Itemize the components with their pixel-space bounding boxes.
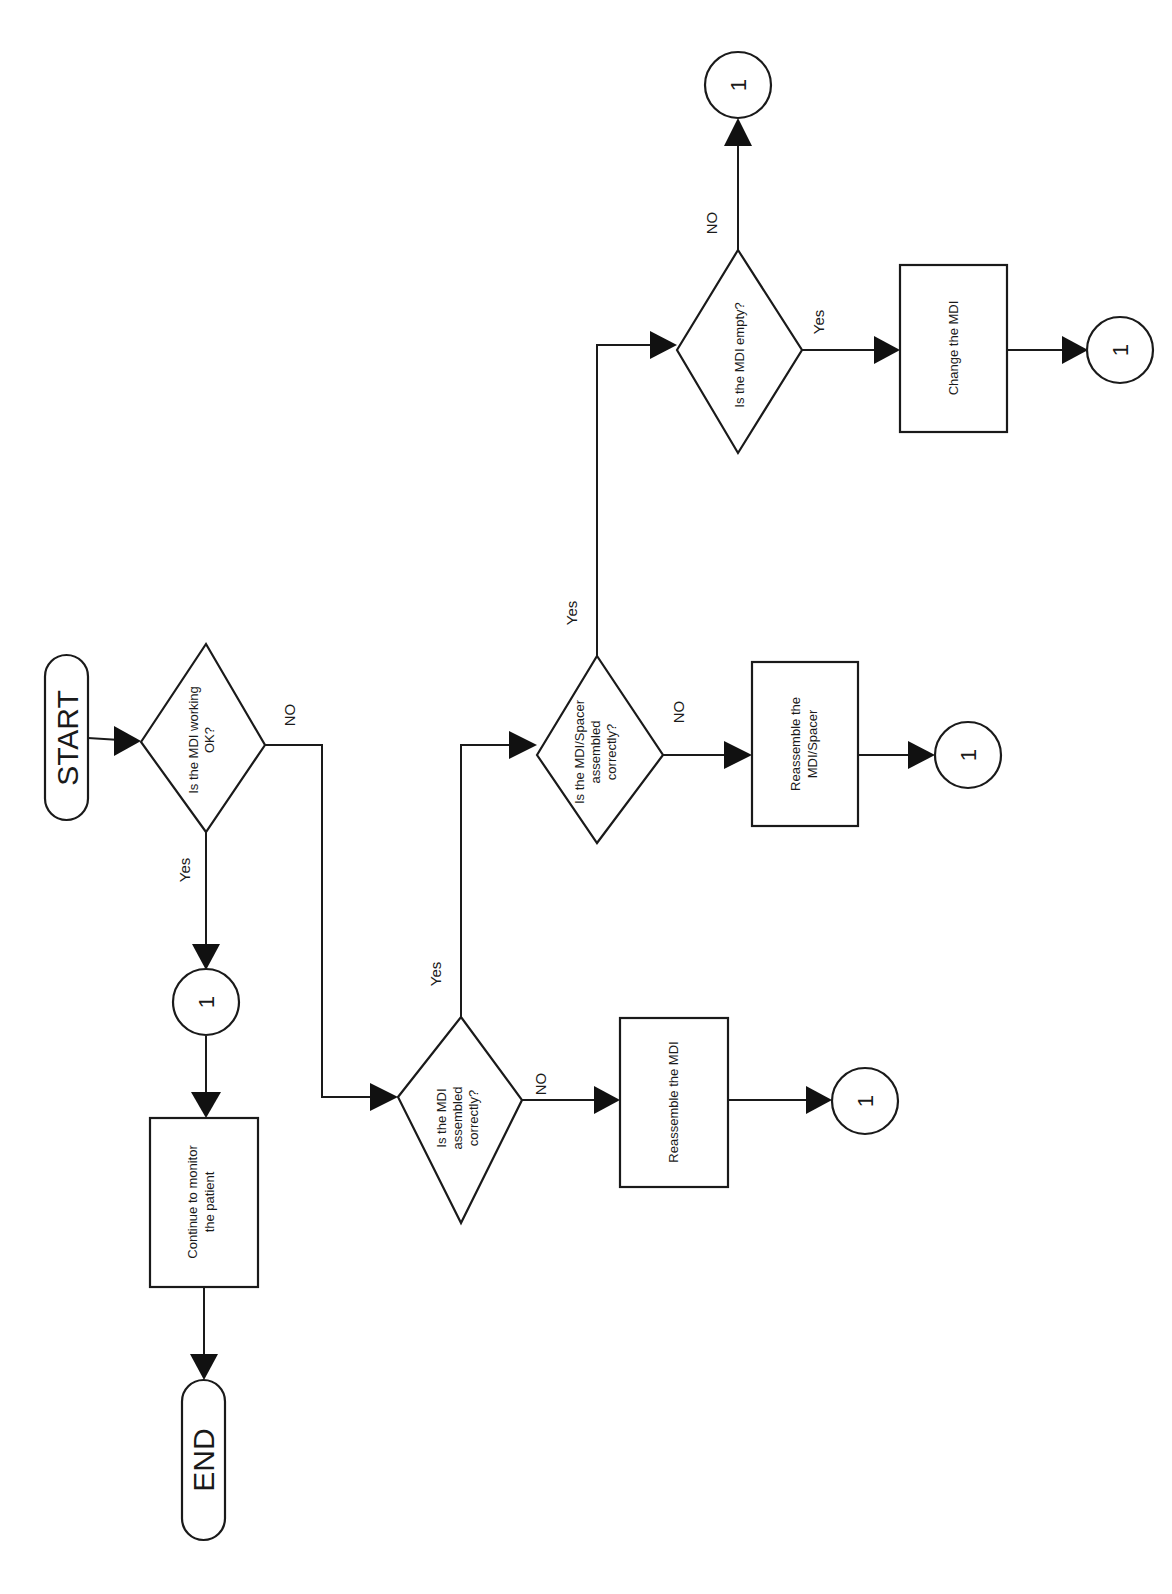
connector-label: 1 <box>194 996 219 1008</box>
decision-text-line: Is the MDI working <box>186 686 201 794</box>
decision-text-line: assembled <box>588 721 603 784</box>
decision-text-line: Is the MDI/Spacer <box>572 699 587 804</box>
arrow-right-icon <box>874 336 900 364</box>
process-text-line: Reassemble the <box>788 697 803 791</box>
process-text-line: Continue to monitor <box>185 1145 200 1259</box>
arrow-right-icon <box>1062 336 1088 364</box>
start-label: START <box>51 690 84 786</box>
connector-label: 1 <box>956 749 981 761</box>
flowchart-canvas: START END Is the MDI working OK? Is the … <box>0 0 1172 1594</box>
connector-after-empty-no: 1 <box>705 52 771 118</box>
label-assembled-no: NO <box>532 1073 549 1096</box>
decision-mdi-working: Is the MDI working OK? <box>141 644 265 832</box>
process-change-mdi: Change the MDI <box>900 265 1007 432</box>
decision-mdi-assembled: Is the MDI assembled correctly? <box>398 1017 522 1223</box>
label-empty-yes: Yes <box>810 310 827 334</box>
arrow-down-icon <box>191 1092 221 1118</box>
arrow-up-icon <box>724 118 752 146</box>
label-empty-no: NO <box>703 212 720 235</box>
edge-working-no <box>265 745 378 1097</box>
connector-label: 1 <box>1108 344 1133 356</box>
decision-text-line: Is the MDI empty? <box>732 302 747 407</box>
process-continue-monitor: Continue to monitor the patient <box>150 1118 258 1287</box>
decision-text-line: assembled <box>450 1087 465 1150</box>
process-reassemble-mdi: Reassemble the MDI <box>620 1018 728 1187</box>
decision-text-line: correctly? <box>466 1090 481 1146</box>
arrow-down-icon <box>190 1354 218 1380</box>
process-text-line: Change the MDI <box>946 301 961 396</box>
connector-after-reassemble-mdi: 1 <box>832 1068 898 1134</box>
end-label: END <box>187 1428 220 1491</box>
process-text-line: MDI/Spacer <box>805 709 820 778</box>
arrow-right-icon <box>724 741 752 769</box>
connector-after-working-yes: 1 <box>173 969 239 1035</box>
process-text-line: Reassemble the MDI <box>666 1041 681 1162</box>
connector-label: 1 <box>726 79 751 91</box>
decision-text-line: OK? <box>202 727 217 753</box>
decision-spacer-assembled: Is the MDI/Spacer assembled correctly? <box>537 656 663 843</box>
connector-label: 1 <box>853 1095 878 1107</box>
arrow-right-icon <box>114 726 141 756</box>
decision-text-line: correctly? <box>604 724 619 780</box>
edge-spacer-yes <box>597 345 656 656</box>
arrow-down-icon <box>192 944 220 970</box>
start-terminal: START <box>45 655 88 820</box>
decision-mdi-empty: Is the MDI empty? <box>677 250 802 453</box>
label-working-yes: Yes <box>176 858 193 882</box>
process-text-line: the patient <box>202 1171 217 1232</box>
connector-after-change-mdi: 1 <box>1087 317 1153 383</box>
decision-text-line: Is the MDI <box>434 1088 449 1147</box>
arrow-right-icon <box>806 1086 832 1114</box>
end-terminal: END <box>182 1380 225 1540</box>
process-reassemble-spacer: Reassemble the MDI/Spacer <box>752 662 858 826</box>
label-working-no: NO <box>281 704 298 727</box>
edge-assembled-yes <box>461 745 517 1017</box>
arrow-right-icon <box>594 1086 620 1114</box>
label-spacer-yes: Yes <box>563 601 580 625</box>
arrow-right-icon <box>908 741 935 769</box>
label-spacer-no: NO <box>670 701 687 724</box>
label-assembled-yes: Yes <box>427 962 444 986</box>
arrow-right-icon <box>509 731 537 759</box>
arrow-right-icon <box>650 331 677 359</box>
arrow-right-icon <box>370 1083 398 1111</box>
connector-after-reassemble-spacer: 1 <box>935 722 1001 788</box>
